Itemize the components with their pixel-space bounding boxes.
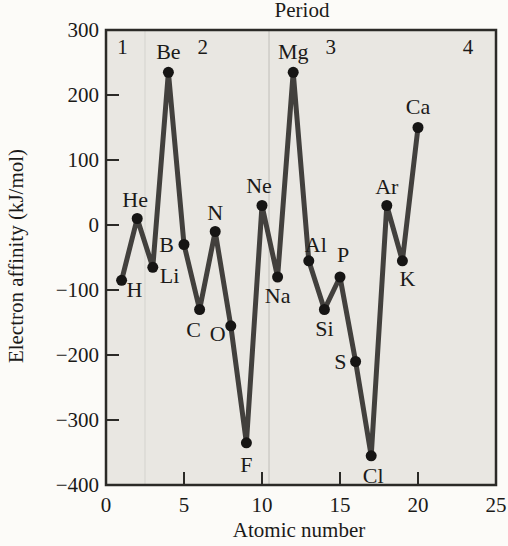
data-point-N — [210, 226, 221, 237]
electron-affinity-figure: 3002001000−100−200−300−40005101520251234… — [0, 0, 508, 546]
x-axis-title: Atomic number — [233, 518, 365, 543]
data-point-H — [116, 275, 127, 286]
y-tick-label: −200 — [56, 343, 99, 367]
element-label-Li: Li — [160, 263, 180, 288]
period-number-label: 2 — [197, 35, 208, 59]
y-tick-label: −100 — [56, 278, 99, 302]
element-label-C: C — [186, 317, 201, 342]
data-point-B — [179, 239, 190, 250]
data-point-Li — [147, 262, 158, 273]
element-label-F: F — [240, 452, 252, 477]
data-point-O — [225, 320, 236, 331]
data-point-Cl — [366, 450, 377, 461]
data-point-Be — [163, 67, 174, 78]
data-point-Na — [272, 272, 283, 283]
data-point-He — [132, 213, 143, 224]
y-tick-label: 100 — [68, 148, 100, 172]
element-label-P: P — [337, 242, 349, 267]
x-tick-label: 0 — [101, 493, 112, 517]
x-tick-label: 20 — [408, 493, 429, 517]
y-tick-label: 300 — [68, 18, 100, 42]
element-label-S: S — [334, 349, 346, 374]
element-label-Ar: Ar — [375, 174, 399, 199]
element-label-Be: Be — [156, 39, 180, 64]
element-label-Ne: Ne — [246, 173, 272, 198]
element-label-H: H — [127, 277, 143, 302]
data-point-F — [241, 437, 252, 448]
data-point-K — [397, 255, 408, 266]
period-number-label: 3 — [325, 35, 336, 59]
data-point-S — [350, 356, 361, 367]
y-tick-label: −300 — [56, 408, 99, 432]
x-tick-label: 15 — [330, 493, 351, 517]
data-point-P — [335, 272, 346, 283]
y-tick-label: 0 — [89, 213, 100, 237]
x-tick-label: 25 — [486, 493, 507, 517]
x-tick-label: 5 — [179, 493, 190, 517]
y-tick-label: −400 — [56, 473, 99, 497]
data-point-Ar — [381, 200, 392, 211]
element-label-N: N — [207, 200, 223, 225]
data-point-Si — [319, 304, 330, 315]
element-label-K: K — [399, 266, 415, 291]
element-label-Mg: Mg — [278, 39, 309, 64]
top-axis-title: Period — [275, 0, 330, 23]
element-label-Si: Si — [315, 316, 333, 341]
element-label-O: O — [210, 321, 226, 346]
chart-canvas: 3002001000−100−200−300−40005101520251234… — [0, 0, 508, 546]
period-number-label: 1 — [117, 35, 128, 59]
x-tick-label: 10 — [252, 493, 273, 517]
element-label-B: B — [159, 232, 174, 257]
period-number-label: 4 — [463, 35, 474, 59]
element-label-Na: Na — [265, 283, 291, 308]
element-label-Al: Al — [305, 232, 327, 257]
data-point-Ne — [257, 200, 268, 211]
data-point-Mg — [288, 67, 299, 78]
element-label-Ca: Ca — [406, 94, 431, 119]
data-point-Ca — [413, 122, 424, 133]
data-point-Al — [303, 255, 314, 266]
data-point-C — [194, 304, 205, 315]
element-label-He: He — [122, 187, 148, 212]
y-tick-label: 200 — [68, 83, 100, 107]
y-axis-title: Electron affinity (kJ/mol) — [4, 149, 29, 363]
